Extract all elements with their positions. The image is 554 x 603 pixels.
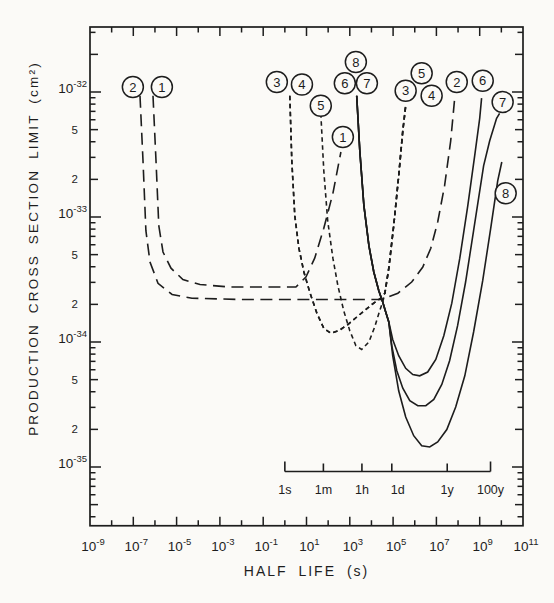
y-tick-labels: 10-3210-3310-3410-35252525 [58,78,87,471]
curves [140,96,502,447]
x-tick-label: 10-1 [254,536,277,554]
curve-6-label-number: 6 [341,76,348,91]
curve-1-label-number: 1 [158,80,165,95]
figure-page: 10-910-710-510-310-110110310510710910111… [0,0,554,603]
curve-1-label-number: 1 [339,130,346,145]
y-tick-label: 10-32 [58,78,87,96]
curve-4-label-number: 4 [428,88,435,103]
y-minor-label: 5 [72,374,78,386]
chart-svg: 10-910-710-510-310-110110310510710910111… [0,0,554,603]
x-tick-labels: 10-910-710-510-310-11011031051071091011 [81,536,538,554]
curve-7-label-number: 7 [363,76,370,91]
y-minor-label: 2 [72,173,78,185]
x-tick-label: 109 [473,536,493,554]
curve-8-label-number: 8 [352,55,359,70]
x-tick-label: 10-3 [211,536,234,554]
curve-4-left-label: 4 [291,74,312,95]
y-axis-title: PRODUCTION CROSS SECTION LIMIT (cm²) [26,29,43,469]
curve-2-right-label: 2 [446,72,467,93]
curve-7 [357,96,500,406]
curve-1-right-label: 1 [332,127,353,148]
curve-3-label-number: 3 [273,75,280,90]
ruler-label-1h: 1h [355,483,369,497]
curve-6-label-number: 6 [479,73,486,88]
curve-5-label-number: 5 [418,66,425,81]
curve-1 [153,96,341,287]
curve-5-label-number: 5 [317,98,324,113]
y-tick-label: 10-33 [58,203,87,221]
curve-2-left-label: 2 [122,77,143,98]
x-tick-label: 103 [343,536,363,554]
ruler-label-1m: 1m [315,483,332,497]
x-tick-label: 105 [386,536,406,554]
curve-3-left-label: 3 [266,72,287,93]
x-axis-title: HALF LIFE (s) [90,563,523,579]
curve-2-label-number: 2 [129,80,136,95]
y-tick-label: 10-34 [58,328,87,346]
ruler-label-1y: 1y [441,483,455,497]
curve-2 [140,96,455,300]
ruler-label-1s: 1s [278,483,291,497]
x-tick-label: 107 [429,536,449,554]
curve-2-label-number: 2 [453,75,460,90]
x-tick-label: 10-5 [168,536,191,554]
curve-5-left-label: 5 [310,95,331,116]
curve-4-label-number: 4 [298,77,305,92]
curve-5-right-label: 5 [411,63,432,84]
ruler-label-100y: 100y [477,483,505,497]
curve-8 [357,96,502,447]
x-tick-label: 10-9 [81,536,104,554]
x-tick-label: 101 [299,536,319,554]
y-minor-label: 5 [72,249,78,261]
curve-7-right-label: 7 [492,92,513,113]
curve-8-left-label: 8 [345,52,366,73]
curve-8-right-label: 8 [495,183,516,204]
x-tick-label: 10-7 [125,536,148,554]
curve-6 [357,96,482,376]
curve-3-right-label: 3 [395,80,416,101]
y-tick-label: 10-35 [58,453,87,471]
curve-6-right-label: 6 [472,70,493,91]
time-ruler: 1s1m1h1d1y100y [278,462,505,498]
curve-labels: 1122334455667788 [122,52,516,204]
curve-7-left-label: 7 [356,73,377,94]
curve-3-label-number: 3 [402,83,409,98]
x-tick-label: 1011 [514,536,539,554]
y-minor-label: 2 [72,423,78,435]
curve-7-label-number: 7 [499,95,506,110]
curve-6-left-label: 6 [334,73,355,94]
ruler-label-1d: 1d [391,483,405,497]
curve-8-label-number: 8 [502,186,509,201]
y-minor-label: 2 [72,298,78,310]
curve-1-left-label: 1 [151,77,172,98]
y-minor-label: 5 [72,124,78,136]
curve-4-right-label: 4 [421,85,442,106]
